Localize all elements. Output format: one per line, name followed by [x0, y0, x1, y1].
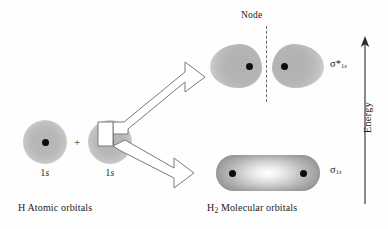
mo-diagram-canvas: 1s + 1s H Atomic orbitals Node σ*1s: [0, 0, 388, 229]
bonding-orbital: [216, 155, 320, 191]
molecular-caption-suffix: Molecular orbitals: [218, 202, 297, 213]
antibonding-left-nucleus: [246, 63, 253, 70]
antibonding-left-lobe-shape: [210, 44, 262, 88]
bonding-left-nucleus: [229, 170, 236, 177]
bonding-right-nucleus: [300, 170, 307, 177]
atomic-orbital-1-l: s: [46, 168, 50, 178]
antibonding-orbital-left-lobe: [210, 44, 262, 88]
antibonding-right-nucleus: [281, 63, 288, 70]
atomic-orbital-1-label: 1s: [23, 168, 67, 178]
antibonding-orbital-label: σ*1s: [330, 58, 347, 69]
atomic-orbital-1-nucleus: [42, 139, 49, 146]
antibonding-right-lobe-shape: [272, 44, 324, 88]
node-label: Node: [241, 10, 262, 20]
arrow-up-antibonding: [113, 62, 205, 134]
molecular-orbitals-caption: H2 Molecular orbitals: [207, 202, 297, 215]
antibonding-sub-l: s: [344, 62, 347, 69]
atomic-orbitals-caption: H Atomic orbitals: [18, 202, 92, 213]
node-dashed-line: [266, 26, 267, 102]
antibonding-subscript: 1s: [341, 62, 347, 69]
antibonding-orbital-right-lobe: [272, 44, 324, 88]
bonding-sub-l: s: [339, 168, 342, 175]
bonding-subscript: 1s: [336, 168, 342, 175]
energy-axis-label: Energy: [362, 88, 373, 148]
arrow-fork-stem: [98, 122, 113, 146]
arrow-down-bonding: [113, 134, 194, 188]
atomic-orbital-1: [23, 120, 67, 164]
plus-sign: +: [74, 137, 80, 148]
bonding-orbital-label: σ1s: [330, 164, 341, 175]
